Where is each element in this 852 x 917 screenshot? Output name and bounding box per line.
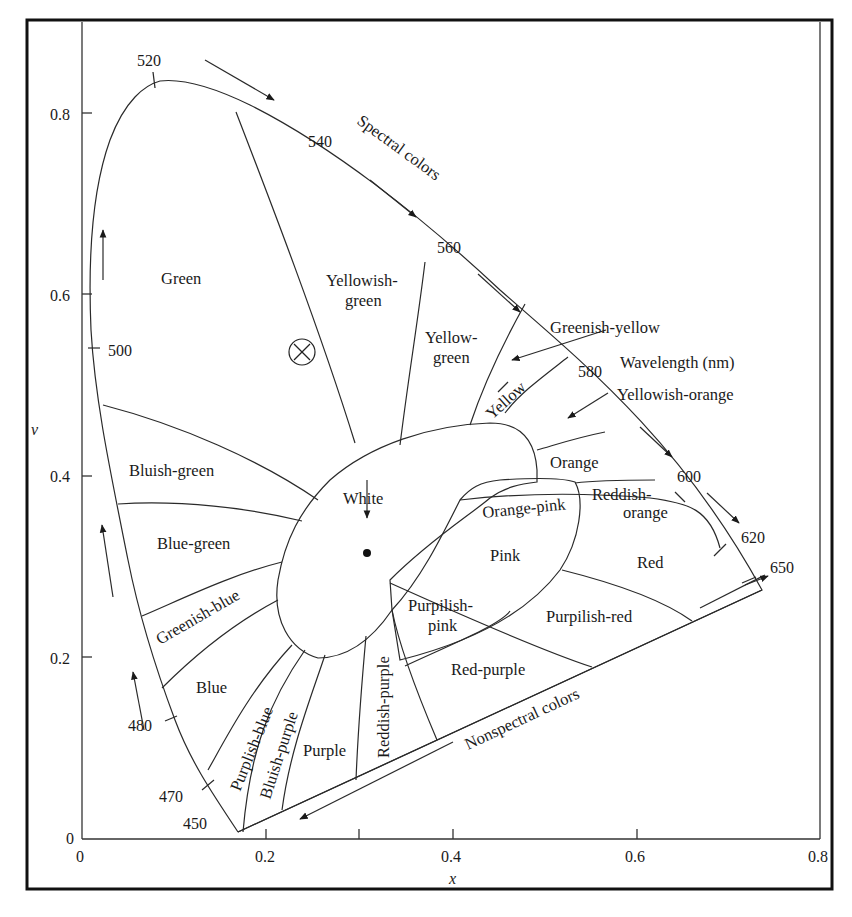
y-tick-0: 0 <box>66 830 74 847</box>
white-point-dot <box>363 549 371 557</box>
wavelength-ticks <box>88 72 756 790</box>
x-tick-0.2: 0.2 <box>255 848 275 865</box>
arrow-spectral-1 <box>205 60 274 100</box>
wl-560: 560 <box>437 239 461 256</box>
circled-x-marker <box>289 339 315 365</box>
x-tick-0.4: 0.4 <box>441 848 461 865</box>
x-tick-labels: 0 0.2 0.4 0.6 0.8 <box>76 848 828 865</box>
label-blue: Blue <box>196 678 227 697</box>
label-purpilish-pink: Purpilish- <box>408 596 473 615</box>
label-orange-pink: Orange-pink <box>481 494 567 522</box>
label-yellow-green: Yellow- <box>425 328 477 347</box>
label-blue-green: Blue-green <box>157 534 230 553</box>
arrow-spectral-2 <box>370 180 416 217</box>
x-axis-title: x <box>448 870 456 887</box>
label-greenish-yellow: Greenish-yellow <box>550 318 660 337</box>
wl-540: 540 <box>308 133 332 150</box>
label-yellowish-orange: Yellowish-orange <box>617 385 734 404</box>
x-tick-0.8: 0.8 <box>808 848 828 865</box>
y-tick-0.6: 0.6 <box>50 287 70 304</box>
label-spectral-colors: Spectral colors <box>354 111 445 184</box>
label-white: White <box>343 489 383 508</box>
label-pink: Pink <box>490 546 521 565</box>
label-reddish-purple: Reddish-purple <box>374 656 393 758</box>
wl-580: 580 <box>578 363 602 380</box>
arrow-spectral-5 <box>707 493 739 523</box>
wl-650: 650 <box>770 559 794 576</box>
label-red-purple: Red-purple <box>451 660 525 679</box>
line-of-purples <box>238 590 762 832</box>
arrow-spectral-4 <box>640 427 672 457</box>
wl-520: 520 <box>137 52 161 69</box>
y-axis-title: v <box>31 421 39 438</box>
arrow-spectral-3 <box>478 274 520 312</box>
svg-text:orange: orange <box>623 503 668 522</box>
y-tick-0.4: 0.4 <box>50 468 70 485</box>
spectral-locus <box>90 80 762 832</box>
wl-620: 620 <box>741 529 765 546</box>
label-purpilish-red: Purpilish-red <box>546 607 633 626</box>
label-green: Green <box>161 269 201 288</box>
plot-axes <box>82 22 820 839</box>
label-red: Red <box>637 553 664 572</box>
arrow-up-2 <box>102 525 113 597</box>
region-labels: Green Yellowish- green Yellow- green Yel… <box>129 269 668 801</box>
label-wavelength-nm: Wavelength (nm) <box>620 353 735 372</box>
x-tick-0.6: 0.6 <box>625 848 645 865</box>
wl-500: 500 <box>108 342 132 359</box>
label-bluish-green: Bluish-green <box>129 461 214 480</box>
label-orange: Orange <box>550 453 599 472</box>
wl-450: 450 <box>183 815 207 832</box>
label-purple: Purple <box>303 741 346 760</box>
arrow-yellowish-orange <box>568 393 608 418</box>
label-yellowish-green: Yellowish- <box>326 271 398 290</box>
y-tick-0.2: 0.2 <box>50 650 70 667</box>
y-tick-0.8: 0.8 <box>50 106 70 123</box>
wl-600: 600 <box>677 468 701 485</box>
chromaticity-figure: 0.8 0.6 0.4 0.2 0 0 0.2 0.4 0.6 0.8 x v … <box>0 0 852 917</box>
svg-text:green: green <box>345 291 382 310</box>
label-nonspectral-colors: Nonspectral colors <box>462 684 583 754</box>
svg-text:green: green <box>433 348 470 367</box>
x-tick-0: 0 <box>76 848 84 865</box>
svg-text:pink: pink <box>428 616 458 635</box>
label-reddish-orange: Reddish- <box>592 485 652 504</box>
wl-470: 470 <box>159 788 183 805</box>
y-tick-labels: 0.8 0.6 0.4 0.2 0 <box>50 106 74 847</box>
outer-frame <box>27 20 832 889</box>
label-greenish-blue: Greenish-blue <box>153 585 243 648</box>
wl-480: 480 <box>128 717 152 734</box>
chromaticity-diagram: 0.8 0.6 0.4 0.2 0 0 0.2 0.4 0.6 0.8 x v … <box>0 0 852 917</box>
